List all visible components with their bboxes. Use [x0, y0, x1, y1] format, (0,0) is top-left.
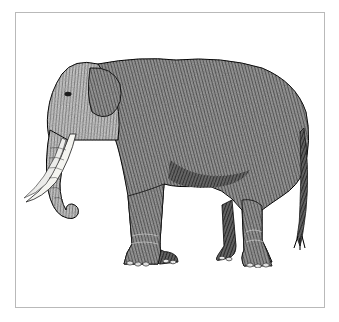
near-hind-leg [242, 200, 272, 266]
far-hind-leg [216, 200, 236, 260]
tail-tuft [294, 236, 305, 250]
elephant-illustration [0, 0, 339, 322]
torso [98, 59, 309, 266]
eye [65, 92, 72, 97]
elephant-body-group [46, 59, 308, 268]
near-front-leg [124, 184, 164, 264]
